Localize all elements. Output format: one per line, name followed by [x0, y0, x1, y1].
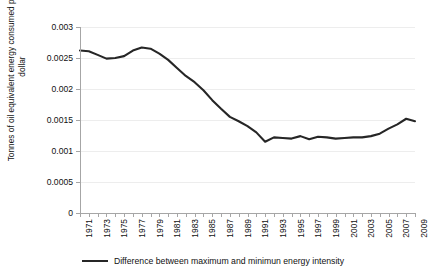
- x-tick-label: 1975: [119, 219, 129, 238]
- x-tick-mark: [203, 213, 204, 217]
- x-tick-mark: [239, 213, 240, 217]
- x-tick-label: 1987: [225, 219, 235, 238]
- x-tick-mark: [327, 213, 328, 217]
- legend-line-swatch: [82, 260, 108, 262]
- x-tick-mark: [80, 213, 81, 217]
- x-tick-mark: [106, 213, 107, 217]
- x-tick-mark: [274, 213, 275, 217]
- y-tick-label: 0: [68, 208, 73, 218]
- x-tick-mark: [336, 213, 337, 217]
- x-tick-label: 1979: [155, 219, 165, 238]
- x-tick-label: 1977: [137, 219, 147, 238]
- x-tick-mark: [397, 213, 398, 217]
- x-tick-mark: [133, 213, 134, 217]
- x-tick-mark: [362, 213, 363, 217]
- y-tick-label: 0.0005: [47, 177, 73, 187]
- x-tick-label: 1983: [190, 219, 200, 238]
- plot-area: [80, 27, 415, 213]
- y-tick-label: 0.0015: [47, 115, 73, 125]
- x-tick-mark: [159, 213, 160, 217]
- y-axis-line: [80, 27, 81, 214]
- x-tick-label: 1991: [260, 219, 270, 238]
- x-tick-mark: [292, 213, 293, 217]
- x-tick-label: 1973: [102, 219, 112, 238]
- x-tick-label: 2001: [349, 219, 359, 238]
- x-tick-label: 2003: [366, 219, 376, 238]
- x-tick-mark: [345, 213, 346, 217]
- x-tick-mark: [221, 213, 222, 217]
- y-tick-mark: [76, 151, 80, 152]
- x-tick-mark: [186, 213, 187, 217]
- x-tick-mark: [142, 213, 143, 217]
- x-tick-label: 1985: [207, 219, 217, 238]
- x-tick-label: 1989: [243, 219, 253, 238]
- x-tick-mark: [248, 213, 249, 217]
- x-tick-mark: [195, 213, 196, 217]
- x-tick-mark: [256, 213, 257, 217]
- series-line-energy-intensity: [80, 47, 415, 141]
- x-tick-mark: [151, 213, 152, 217]
- x-tick-label: 1997: [313, 219, 323, 238]
- y-tick-mark: [76, 120, 80, 121]
- x-tick-mark: [318, 213, 319, 217]
- series-layer: [80, 27, 415, 213]
- x-tick-label: 2009: [419, 219, 429, 238]
- x-tick-mark: [353, 213, 354, 217]
- x-tick-mark: [168, 213, 169, 217]
- y-tick-label: 0.001: [51, 146, 73, 156]
- x-tick-mark: [389, 213, 390, 217]
- x-tick-label: 1981: [172, 219, 182, 238]
- x-tick-mark: [89, 213, 90, 217]
- x-tick-mark: [212, 213, 213, 217]
- legend-label: Difference between maximum and minimun e…: [114, 256, 344, 266]
- x-tick-mark: [230, 213, 231, 217]
- x-tick-label: 1999: [331, 219, 341, 238]
- x-tick-label: 1995: [296, 219, 306, 238]
- x-tick-label: 2005: [384, 219, 394, 238]
- x-tick-mark: [98, 213, 99, 217]
- x-tick-mark: [380, 213, 381, 217]
- y-tick-label: 0.0025: [47, 53, 73, 63]
- y-tick-mark: [76, 58, 80, 59]
- x-tick-mark: [415, 213, 416, 217]
- x-tick-label: 1993: [278, 219, 288, 238]
- y-tick-label: 0.002: [51, 84, 73, 94]
- x-tick-mark: [177, 213, 178, 217]
- y-tick-label: 0.003: [51, 22, 73, 32]
- x-tick-mark: [265, 213, 266, 217]
- x-tick-mark: [406, 213, 407, 217]
- x-tick-mark: [309, 213, 310, 217]
- chart-legend: Difference between maximum and minimun e…: [0, 256, 426, 266]
- x-tick-mark: [283, 213, 284, 217]
- x-tick-label: 2007: [401, 219, 411, 238]
- y-axis-title: Tonnes of oil equivalent energy consumed…: [6, 0, 27, 167]
- x-tick-mark: [124, 213, 125, 217]
- x-tick-mark: [371, 213, 372, 217]
- y-tick-mark: [76, 27, 80, 28]
- x-tick-mark: [115, 213, 116, 217]
- y-tick-mark: [76, 182, 80, 183]
- x-tick-label: 1971: [84, 219, 94, 238]
- x-tick-mark: [300, 213, 301, 217]
- y-tick-mark: [76, 89, 80, 90]
